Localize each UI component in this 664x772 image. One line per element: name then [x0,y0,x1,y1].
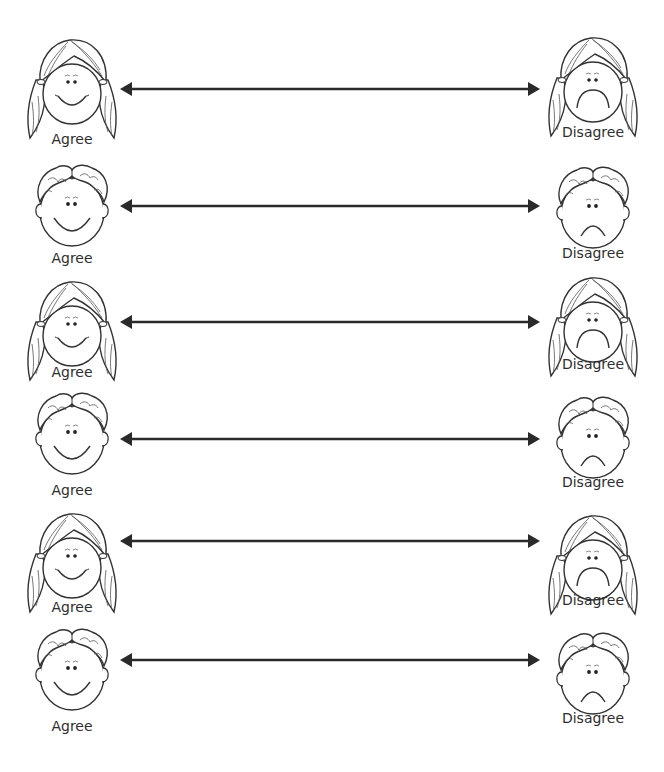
agree-disagree-scale-arrow[interactable] [118,79,542,103]
agree-boy-face-icon [22,614,122,714]
agree-disagree-scale-arrow[interactable] [118,312,542,336]
agree-disagree-scale-arrow[interactable] [118,429,542,453]
agree-disagree-scale-arrow[interactable] [118,531,542,555]
agree-label: Agree [17,718,127,734]
disagree-label: Disagree [538,592,648,608]
agree-label: Agree [17,599,127,615]
agree-girl-face-icon [22,494,122,614]
agree-boy-face-icon [22,378,122,478]
agree-girl-face-icon [22,20,122,140]
disagree-label: Disagree [538,474,648,490]
disagree-boy-face-icon [543,618,643,718]
agree-label: Agree [17,131,127,147]
disagree-girl-face-icon [543,18,643,138]
disagree-boy-face-icon [543,382,643,482]
agree-disagree-scale-arrow[interactable] [118,196,542,220]
disagree-label: Disagree [538,710,648,726]
disagree-boy-face-icon [543,152,643,252]
agree-boy-face-icon [22,150,122,250]
agree-disagree-scale-arrow[interactable] [118,650,542,674]
disagree-label: Disagree [538,124,648,140]
disagree-label: Disagree [538,356,648,372]
